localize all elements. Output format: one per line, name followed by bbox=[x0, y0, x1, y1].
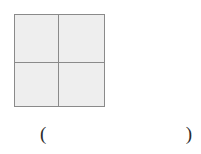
square-cell-top-right bbox=[59, 15, 104, 62]
square-cell-bottom-left bbox=[15, 63, 58, 106]
square-cell-bottom-right bbox=[59, 63, 104, 106]
square-cell-top-left bbox=[15, 15, 58, 62]
answer-blank[interactable] bbox=[52, 122, 180, 146]
vertical-divider-line bbox=[58, 15, 59, 106]
open-paren: ( bbox=[40, 122, 46, 146]
close-paren: ) bbox=[186, 122, 192, 146]
answer-slot[interactable]: ( ) bbox=[38, 122, 194, 146]
subdivided-square bbox=[14, 14, 105, 107]
figure-canvas: ( ) bbox=[0, 0, 201, 154]
horizontal-divider-line bbox=[15, 62, 104, 63]
